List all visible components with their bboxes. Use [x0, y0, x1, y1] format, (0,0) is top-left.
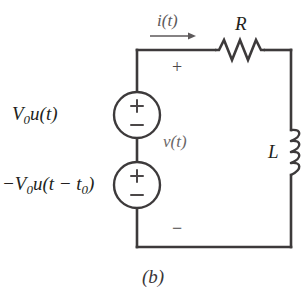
current-arrow-icon	[150, 32, 196, 39]
figure-caption: (b)	[0, 266, 306, 288]
circuit-schematic	[0, 0, 306, 301]
circuit-figure: V0u(t) −V0u(t − t0) R L i(t) v(t) + − (b…	[0, 0, 306, 301]
polarity-plus-label: +	[172, 58, 182, 76]
inductor-label: L	[268, 142, 279, 161]
polarity-minus-label: −	[172, 219, 182, 237]
voltage-source-top-label: V0u(t)	[12, 104, 58, 127]
resistor-symbol	[215, 40, 265, 60]
resistor-label: R	[235, 14, 247, 33]
current-label: i(t)	[157, 12, 178, 29]
voltage-source-top-symbol	[114, 92, 160, 138]
voltage-source-bottom-symbol	[114, 162, 160, 208]
inductor-symbol	[291, 130, 299, 175]
voltage-source-bottom-label: −V0u(t − t0)	[2, 174, 94, 197]
voltage-label: v(t)	[163, 133, 187, 150]
